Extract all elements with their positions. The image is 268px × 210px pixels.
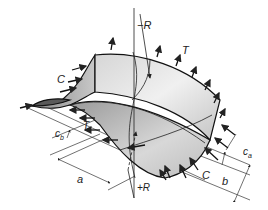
label-tension-top: T — [182, 45, 189, 56]
label-plus-r: +R — [137, 183, 150, 193]
label-cb: cb — [55, 129, 64, 141]
label-compression-left: C — [57, 74, 65, 85]
label-compression-right: C — [202, 170, 210, 181]
label-b: b — [222, 176, 228, 187]
label-ca: ca — [243, 147, 252, 159]
label-tension-mid: T — [83, 121, 89, 131]
label-minus-r: −R — [137, 20, 151, 31]
label-a: a — [77, 174, 83, 185]
shell-diagram: −R T C T cb a +R C b ca — [0, 0, 268, 210]
